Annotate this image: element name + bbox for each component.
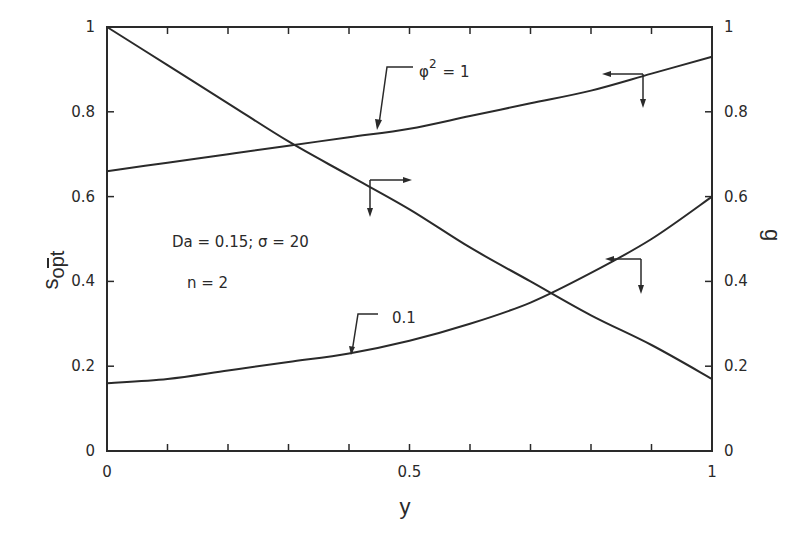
y-right-tick-label: 0.8: [724, 103, 748, 121]
arrowhead-icon: [638, 285, 644, 294]
plot-series: [107, 27, 712, 383]
y-left-tick-label: 0.2: [71, 357, 95, 375]
svg-text:sopt: sopt: [38, 250, 68, 289]
chart-figure: 00.5100.20.40.60.8100.20.40.60.81 y sopt…: [0, 0, 805, 537]
x-axis-title: y: [400, 494, 411, 519]
arrowhead-icon: [375, 119, 382, 130]
y-left-tick-label: 1: [85, 18, 95, 36]
x-tick-label: 1: [707, 463, 717, 481]
leader-phi: [379, 67, 413, 124]
y-left-title-main: s: [38, 278, 63, 289]
y-left-axis-title: sopt: [38, 250, 68, 289]
y-left-tick-label: 0.4: [71, 272, 95, 290]
x-tick-label: 0: [102, 463, 112, 481]
svg-text:g: g: [760, 229, 785, 241]
x-tick-label: 0.5: [398, 463, 422, 481]
label-curve-0-1: 0.1: [392, 309, 416, 327]
y-right-tick-label: 0.6: [724, 188, 748, 206]
y-right-tick-label: 1: [724, 18, 734, 36]
y-left-tick-label: 0.6: [71, 188, 95, 206]
label-phi-squared: φ2= 1: [419, 57, 469, 81]
arrowhead-icon: [640, 99, 646, 108]
arrowhead-icon: [605, 256, 614, 262]
param-da-sigma: Da = 0.15; σ = 20: [172, 233, 309, 251]
y-left-tick-label: 0.8: [71, 103, 95, 121]
arrowhead-icon: [403, 177, 412, 183]
y-left-tick-label: 0: [85, 442, 95, 460]
y-right-tick-label: 0: [724, 442, 734, 460]
y-right-tick-label: 0.2: [724, 357, 748, 375]
y-left-title-sub: opt: [46, 250, 68, 278]
arrowhead-icon: [602, 71, 611, 77]
param-n: n = 2: [187, 274, 228, 292]
y-right-tick-label: 0.4: [724, 272, 748, 290]
leader-0-1: [352, 314, 378, 352]
arrowhead-icon: [367, 208, 373, 217]
y-right-axis-title: g: [760, 229, 785, 241]
